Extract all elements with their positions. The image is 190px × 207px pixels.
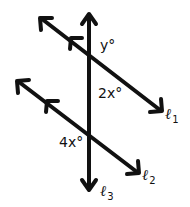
angle-label-2x: 2x° — [98, 86, 122, 100]
diagram-canvas: y° 2x° 4x° ℓ1 ℓ2 ℓ3 — [0, 0, 190, 207]
line-subscript: 3 — [107, 191, 113, 202]
line-label-l3: ℓ3 — [100, 184, 114, 199]
angle-label-y: y° — [100, 38, 115, 52]
line-symbol: ℓ — [165, 105, 171, 123]
line-l3 — [82, 14, 96, 190]
angle-label-4x: 4x° — [59, 135, 83, 149]
line-subscript: 1 — [172, 114, 178, 125]
line-label-l2: ℓ2 — [142, 168, 156, 183]
line-subscript: 2 — [149, 175, 155, 186]
diagram-lines — [0, 0, 190, 207]
line-symbol: ℓ — [100, 182, 106, 200]
line-symbol: ℓ — [142, 166, 148, 184]
line-label-l1: ℓ1 — [165, 107, 179, 122]
